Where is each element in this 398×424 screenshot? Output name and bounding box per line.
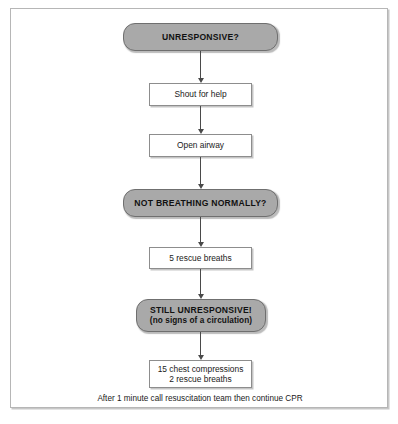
node-still-unresponsive-label: STILL UNRESPONSIVE! xyxy=(150,305,252,316)
node-unresponsive[interactable]: UNRESPONSIVE? xyxy=(123,23,278,51)
connector-rescue-to-still-unresponsive xyxy=(200,269,201,299)
node-unresponsive-label: UNRESPONSIVE? xyxy=(162,32,239,43)
node-rescue-breaths[interactable]: 5 rescue breaths xyxy=(149,247,252,269)
node-not-breathing-normally[interactable]: NOT BREATHING NORMALLY? xyxy=(123,189,278,217)
flowchart-caption: After 1 minute call resuscitation team t… xyxy=(11,394,389,403)
node-still-unresponsive-sublabel: (no signs of a circulation) xyxy=(150,316,252,326)
node-chest-compressions-label-2: 2 rescue breaths xyxy=(169,374,231,385)
node-open-airway[interactable]: Open airway xyxy=(149,134,252,157)
node-open-airway-label: Open airway xyxy=(177,140,224,151)
node-shout-for-help[interactable]: Shout for help xyxy=(149,83,252,106)
flowchart-canvas: UNRESPONSIVE? Shout for help Open airway… xyxy=(11,9,389,409)
flowchart-frame: UNRESPONSIVE? Shout for help Open airway… xyxy=(10,8,388,408)
connector-shout-to-airway xyxy=(200,106,201,134)
node-chest-compressions[interactable]: 15 chest compressions 2 rescue breaths xyxy=(149,360,252,388)
node-shout-for-help-label: Shout for help xyxy=(174,89,226,100)
connector-still-unresponsive-to-compressions xyxy=(200,332,201,360)
node-still-unresponsive[interactable]: STILL UNRESPONSIVE! (no signs of a circu… xyxy=(136,299,266,332)
connector-airway-to-breathing xyxy=(200,157,201,189)
node-rescue-breaths-label: 5 rescue breaths xyxy=(169,253,231,264)
node-not-breathing-normally-label: NOT BREATHING NORMALLY? xyxy=(134,198,266,209)
connector-breathing-to-rescue xyxy=(200,217,201,247)
connector-unresponsive-to-shout xyxy=(200,51,201,83)
node-chest-compressions-label: 15 chest compressions xyxy=(158,364,244,375)
